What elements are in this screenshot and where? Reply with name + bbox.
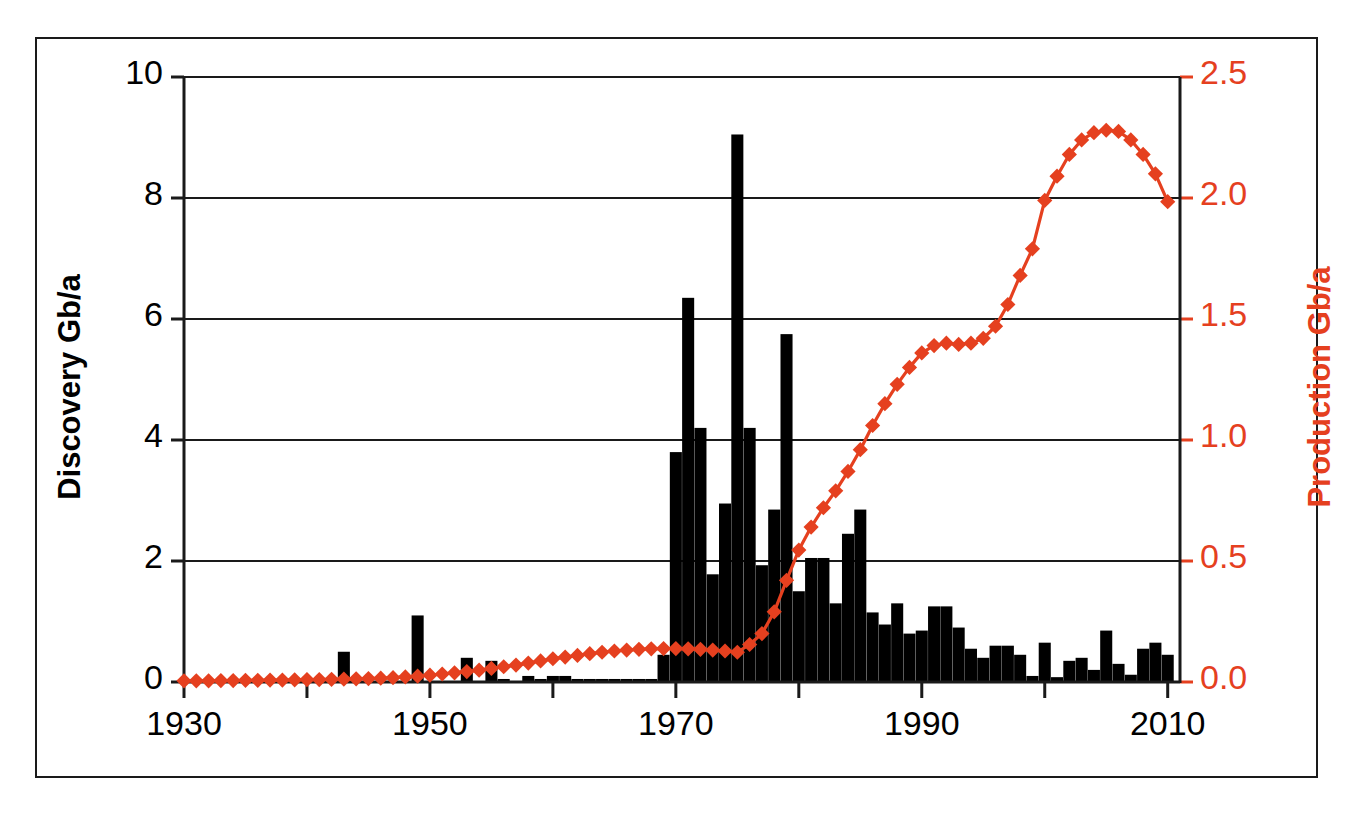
discovery-bar	[903, 634, 915, 682]
discovery-bar	[1002, 646, 1014, 682]
production-marker	[791, 543, 806, 558]
production-marker	[558, 649, 573, 664]
discovery-bar	[965, 649, 977, 682]
production-marker	[496, 659, 511, 674]
discovery-bar	[1088, 670, 1100, 682]
discovery-bar	[1112, 664, 1124, 682]
production-marker	[570, 648, 585, 663]
discovery-bar	[817, 558, 829, 682]
right-axis-tick-label: 1.0	[1200, 416, 1310, 455]
production-marker	[1086, 125, 1101, 140]
right-axis-tick-label: 0.5	[1200, 537, 1310, 576]
production-marker	[594, 645, 609, 660]
production-marker	[607, 643, 622, 658]
discovery-bar	[953, 628, 965, 682]
discovery-bar	[830, 603, 842, 682]
x-axis-tick-label: 2010	[1088, 704, 1248, 743]
axis-lines-group	[184, 77, 1180, 683]
discovery-bar	[891, 603, 903, 682]
discovery-bar	[842, 534, 854, 682]
x-axis-tick-label: 1950	[350, 704, 510, 743]
left-axis-title: Discovery Gb/a	[52, 222, 88, 552]
production-marker	[804, 520, 819, 535]
discovery-bar	[731, 134, 743, 682]
discovery-bar	[854, 510, 866, 682]
left-axis-tick-label: 4	[75, 416, 163, 455]
gridlines-group	[184, 77, 1180, 561]
discovery-bar	[867, 612, 879, 682]
production-marker	[447, 665, 462, 680]
left-axis-tick-label: 8	[75, 174, 163, 213]
production-marker	[533, 653, 548, 668]
discovery-bar	[780, 334, 792, 682]
production-marker	[926, 338, 941, 353]
production-marker	[840, 464, 855, 479]
figure-frame: Discovery Gb/a Production Gb/a 0246810 0…	[35, 37, 1318, 778]
right-axis-tick-label: 2.0	[1200, 174, 1310, 213]
production-marker	[619, 642, 634, 657]
production-marker	[865, 418, 880, 433]
right-axis-tick-label: 0.0	[1200, 658, 1310, 697]
discovery-bar	[682, 298, 694, 682]
left-axis-tick-label: 6	[75, 295, 163, 334]
production-marker	[1160, 194, 1175, 209]
production-marker	[472, 663, 487, 678]
right-axis-title: Production Gb/a	[1302, 222, 1338, 552]
production-marker	[508, 657, 523, 672]
left-axis-tick-label: 10	[75, 53, 163, 92]
discovery-bar	[1137, 649, 1149, 682]
production-marker	[1025, 241, 1040, 256]
production-marker	[951, 337, 966, 352]
production-marker	[582, 646, 597, 661]
production-marker	[1049, 169, 1064, 184]
left-axis-tick-label: 0	[75, 658, 163, 697]
production-marker	[1037, 193, 1052, 208]
discovery-bar	[1039, 643, 1051, 682]
discovery-bar	[879, 625, 891, 682]
right-axis-tick-label: 2.5	[1200, 53, 1310, 92]
discovery-bar	[1014, 655, 1026, 682]
chart-canvas	[37, 39, 1316, 776]
production-marker	[877, 396, 892, 411]
production-marker	[521, 656, 536, 671]
discovery-bar	[793, 591, 805, 682]
right-axis-tick-label: 1.5	[1200, 295, 1310, 334]
production-marker	[1000, 297, 1015, 312]
discovery-bar	[1063, 661, 1075, 682]
discovery-bar	[1162, 655, 1174, 682]
discovery-bar	[658, 655, 670, 682]
discovery-bar	[990, 646, 1002, 682]
production-marker	[939, 336, 954, 351]
production-marker	[435, 666, 450, 681]
discovery-bar	[940, 606, 952, 682]
axis-ticks-group	[171, 77, 1193, 698]
discovery-bar	[768, 510, 780, 682]
discovery-bar	[1149, 643, 1161, 682]
production-marker	[545, 651, 560, 666]
discovery-bar	[977, 658, 989, 682]
production-marker	[1013, 268, 1028, 283]
x-axis-tick-label: 1970	[596, 704, 756, 743]
production-marker	[1099, 123, 1114, 138]
x-axis-tick-label: 1930	[104, 704, 264, 743]
discovery-bar	[805, 558, 817, 682]
discovery-bar	[928, 606, 940, 682]
discovery-bar	[916, 631, 928, 682]
chart-figure: Discovery Gb/a Production Gb/a 0246810 0…	[0, 0, 1356, 816]
discovery-bars-group	[338, 134, 1174, 682]
discovery-bar	[1100, 631, 1112, 682]
discovery-bar	[1076, 658, 1088, 682]
x-axis-tick-label: 1990	[842, 704, 1002, 743]
left-axis-tick-label: 2	[75, 537, 163, 576]
discovery-bar	[707, 574, 719, 682]
production-marker	[853, 442, 868, 457]
production-marker	[1148, 166, 1163, 181]
